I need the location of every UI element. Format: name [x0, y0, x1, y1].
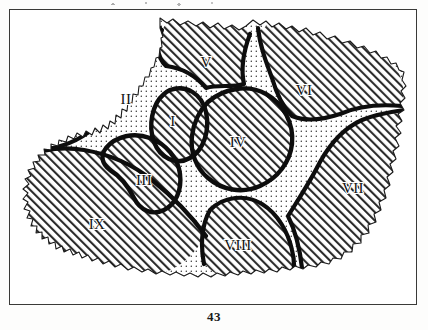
region-label-II: II	[121, 91, 132, 107]
map-figure: I II III IV V VI VII VIII IX	[10, 10, 416, 304]
region-label-VII: VII	[342, 180, 364, 196]
region-label-V: V	[200, 54, 211, 70]
region-label-IX: IX	[89, 216, 106, 232]
region-label-I: I	[170, 113, 175, 129]
page-number: 43	[0, 309, 428, 325]
region-label-VIII: VIII	[224, 237, 251, 253]
scanned-page: I II III IV V VI VII VIII IX 43	[0, 0, 428, 330]
map-body	[10, 10, 416, 304]
region-label-VI: VI	[296, 82, 313, 98]
scan-artifact-top	[95, 0, 245, 7]
region-label-IV: IV	[230, 134, 247, 150]
map-svg: I II III IV V VI VII VIII IX	[10, 10, 416, 304]
region-label-III: III	[136, 172, 152, 188]
